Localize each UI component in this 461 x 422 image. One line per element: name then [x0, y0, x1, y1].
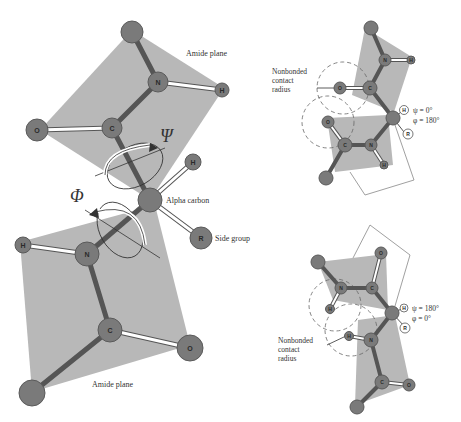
right-top-conformation: N H C O O C N H H R Nonbonded contact ra… [272, 21, 440, 195]
atom-label: O [326, 119, 330, 125]
atom-label: O [34, 127, 40, 134]
atom-label: N [339, 285, 343, 291]
alpha-carbon-label: Alpha carbon [166, 196, 209, 205]
side-group-label: Side group [215, 234, 250, 243]
atom-label: O [187, 345, 193, 352]
amide-plane-top-label: Amide plane [186, 49, 228, 58]
contact-label-line3: radius [272, 85, 290, 94]
amide-plane-bottom [20, 205, 190, 392]
atom-label: R [406, 131, 410, 137]
right-bottom-conformation: O N C H H N C O H R Nonbonded contact ra… [278, 225, 439, 414]
atom-label: O [407, 382, 411, 388]
atom-label: H [190, 159, 195, 166]
atom-label: H [402, 107, 406, 113]
contact-label-line1: Nonbonded [278, 336, 313, 345]
psi-angle-label: ψ = 180° [412, 304, 439, 313]
atom-label: H [402, 305, 406, 311]
atom-label: N [369, 337, 373, 343]
atom-label: C [380, 379, 384, 385]
atom-label: N [84, 251, 89, 258]
atom-label: C [343, 142, 347, 148]
peptide-diagram: N H O C H R H N C O Amide plane Alpha ca… [0, 0, 461, 422]
atom-label: N [383, 57, 387, 63]
plane-top-1 [352, 28, 412, 112]
atom-label: H [347, 333, 351, 339]
atom-label: C [109, 125, 114, 132]
contact-label-line1: Nonbonded [272, 67, 307, 76]
atom-label: R [403, 325, 407, 331]
atom-label: C [368, 85, 372, 91]
phi-angle-label: φ = 180° [413, 116, 440, 125]
atom-label: C [370, 285, 374, 291]
phi-angle-label: φ = 0° [412, 314, 431, 323]
contact-label-line2: contact [278, 345, 301, 354]
atom-label: N [155, 79, 160, 86]
atom-alpha-carbon [138, 188, 162, 212]
atom-top-carbon [121, 21, 143, 43]
atom-label: N [369, 142, 373, 148]
atom-label: H [328, 306, 332, 312]
psi-angle-label: ψ = 0° [413, 106, 432, 115]
amide-plane-bottom-label: Amide plane [92, 380, 134, 389]
contact-label-line2: contact [272, 76, 295, 85]
contact-label-line3: radius [278, 354, 296, 363]
atom-label: H [382, 162, 386, 168]
left-peptide-diagram: N H O C H R H N C O Amide plane Alpha ca… [15, 21, 250, 406]
atom-label: H [219, 87, 224, 94]
atom-label: R [198, 235, 203, 242]
atom-label: O [379, 250, 383, 256]
atom-label: O [338, 85, 342, 91]
atom-bottom-carbon [19, 380, 45, 406]
atom-label: H [409, 57, 413, 63]
phi-symbol: Φ [70, 186, 84, 206]
atom-label: H [20, 242, 25, 249]
atom-label: C [107, 327, 112, 334]
